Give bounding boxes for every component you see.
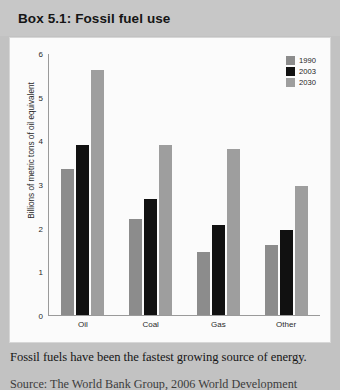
y-tick-label: 5 xyxy=(39,93,43,102)
bar-gas-1990 xyxy=(197,252,210,315)
bar-oil-2003 xyxy=(76,145,89,315)
bar-group-coal: Coal xyxy=(117,54,185,315)
page-background: Box 5.1: Fossil fuel use Billions of met… xyxy=(0,0,340,390)
x-tick-label-coal: Coal xyxy=(142,320,158,329)
y-axis-title: Billions of metric tons of oil equivalen… xyxy=(27,56,36,246)
bar-oil-1990 xyxy=(61,169,74,315)
bar-coal-2030 xyxy=(159,145,172,315)
y-tick-label: 0 xyxy=(39,312,43,321)
legend-item-2003: 2003 xyxy=(286,67,316,76)
plot-area: OilCoalGasOther 0123456 xyxy=(48,54,320,316)
legend-label-2003: 2003 xyxy=(299,67,316,76)
bar-gas-2030 xyxy=(227,149,240,315)
x-tick-label-other: Other xyxy=(276,320,296,329)
x-tick-label-oil: Oil xyxy=(78,320,88,329)
y-tick-label: 4 xyxy=(39,137,43,146)
bar-group-gas: Gas xyxy=(185,54,253,315)
y-tick-label: 2 xyxy=(39,224,43,233)
y-tick-label: 6 xyxy=(39,50,43,59)
y-tick-label: 1 xyxy=(39,268,43,277)
x-axis-line xyxy=(48,315,320,316)
legend-swatch-icon-2030 xyxy=(286,78,295,87)
legend-swatch-icon-2003 xyxy=(286,67,295,76)
bar-coal-1990 xyxy=(129,219,142,315)
chart-panel: Billions of metric tons of oil equivalen… xyxy=(9,37,331,343)
bar-other-2030 xyxy=(295,186,308,315)
box-title: Box 5.1: Fossil fuel use xyxy=(18,11,170,26)
bar-oil-2030 xyxy=(91,70,104,315)
x-tick-label-gas: Gas xyxy=(211,320,226,329)
bar-other-2003 xyxy=(280,230,293,315)
bar-gas-2003 xyxy=(212,225,225,315)
bar-groups: OilCoalGasOther xyxy=(49,54,320,315)
chart-legend: 199020032030 xyxy=(286,56,316,87)
legend-item-2030: 2030 xyxy=(286,78,316,87)
legend-item-1990: 1990 xyxy=(286,56,316,65)
bar-group-other: Other xyxy=(252,54,320,315)
bar-coal-2003 xyxy=(144,199,157,315)
bar-group-oil: Oil xyxy=(49,54,117,315)
y-tick-label: 3 xyxy=(39,181,43,190)
figure-source: Source: The World Bank Group, 2006 World… xyxy=(10,377,332,390)
figure-caption: Fossil fuels have been the fastest growi… xyxy=(10,350,332,365)
bar-other-1990 xyxy=(265,245,278,315)
legend-label-1990: 1990 xyxy=(299,56,316,65)
legend-swatch-icon-1990 xyxy=(286,56,295,65)
legend-label-2030: 2030 xyxy=(299,78,316,87)
box-header: Box 5.1: Fossil fuel use xyxy=(0,0,340,36)
